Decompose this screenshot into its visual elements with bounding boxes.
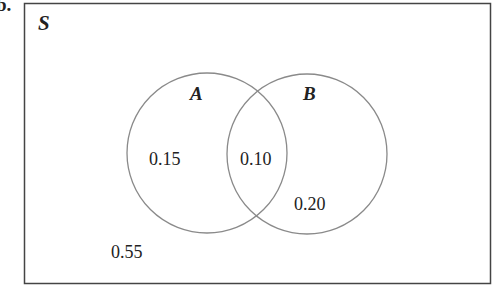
sample-space-frame	[25, 4, 491, 284]
venn-diagram: S A B 0.15 0.10 0.20 0.55	[0, 0, 492, 285]
intersection-value: 0.10	[240, 149, 272, 169]
set-a-label: A	[189, 83, 203, 104]
b-only-value: 0.20	[294, 194, 326, 214]
a-only-value: 0.15	[149, 149, 181, 169]
universe-label: S	[38, 11, 50, 35]
outside-value: 0.55	[111, 242, 143, 262]
set-b-label: B	[302, 83, 316, 104]
